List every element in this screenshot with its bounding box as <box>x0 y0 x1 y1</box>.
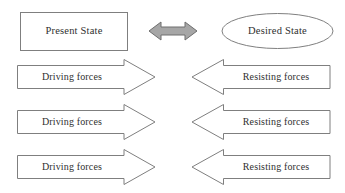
resisting-force-label: Resisting forces <box>226 117 326 127</box>
resisting-force-label: Resisting forces <box>226 72 326 82</box>
desired-state-label: Desired State <box>222 26 333 37</box>
double-headed-arrow-icon <box>149 22 197 40</box>
driving-force-label: Driving forces <box>24 72 120 82</box>
resisting-force-label: Resisting forces <box>226 162 326 172</box>
driving-force-label: Driving forces <box>24 117 120 127</box>
present-state-label: Present State <box>20 26 128 37</box>
driving-force-label: Driving forces <box>24 162 120 172</box>
force-field-diagram: Present State Desired State Driving forc… <box>0 0 345 193</box>
